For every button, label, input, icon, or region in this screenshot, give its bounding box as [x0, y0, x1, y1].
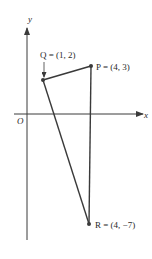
coordinate-diagram: y x O Q = (1, 2) P = (4, 3) R = (4, −7): [0, 0, 152, 259]
segment-rq: [43, 80, 89, 224]
segment-qp: [43, 66, 91, 80]
point-r: [87, 222, 91, 226]
segment-pr: [89, 66, 91, 224]
origin-label: O: [17, 116, 24, 126]
point-q-label: Q = (1, 2): [40, 50, 76, 60]
x-axis-label: x: [143, 110, 148, 120]
point-r-label: R = (4, −7): [95, 220, 135, 230]
point-p-label: P = (4, 3): [96, 62, 130, 72]
point-p: [89, 64, 93, 68]
y-axis-label: y: [27, 14, 32, 24]
point-q: [41, 78, 45, 82]
